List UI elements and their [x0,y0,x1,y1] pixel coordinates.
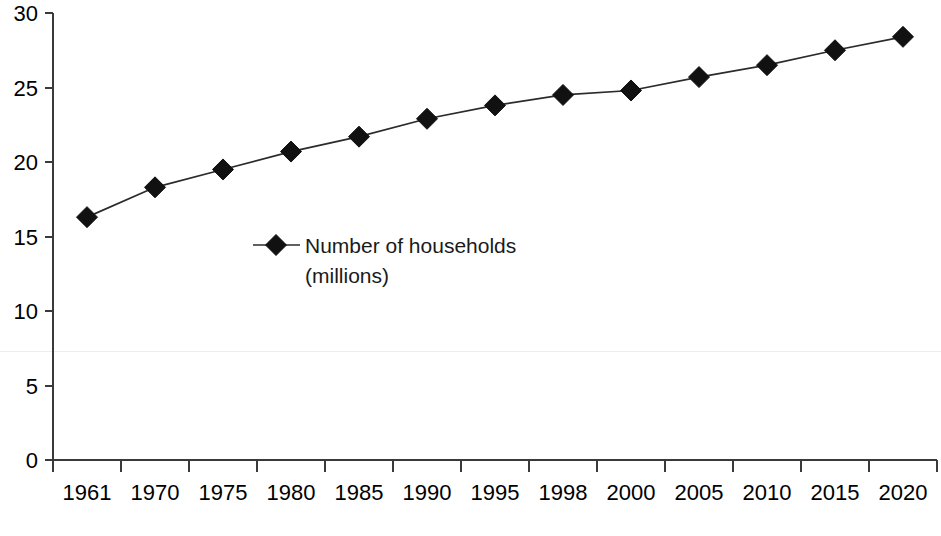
legend-label-line2: (millions) [305,264,389,287]
x-tick-label-2015: 2015 [811,480,860,505]
x-tick-label-2010: 2010 [743,480,792,505]
legend-label-line1: Number of households [305,234,516,257]
x-tick-label-1990: 1990 [403,480,452,505]
y-tick-label-30: 30 [14,1,38,26]
x-tick-label-1961: 1961 [63,480,112,505]
y-tick-label-0: 0 [26,448,38,473]
x-tick-label-1995: 1995 [471,480,520,505]
line-chart: 051015202530 196119701975198019851990199… [0,0,941,536]
y-tick-label-5: 5 [26,374,38,399]
x-tick-label-1998: 1998 [539,480,588,505]
y-tick-label-10: 10 [14,299,38,324]
y-tick-label-15: 15 [14,225,38,250]
chart-background [0,0,941,536]
x-tick-label-1985: 1985 [335,480,384,505]
y-tick-label-25: 25 [14,76,38,101]
x-tick-label-2020: 2020 [879,480,928,505]
x-tick-label-2005: 2005 [675,480,724,505]
chart-container: 051015202530 196119701975198019851990199… [0,0,941,536]
x-tick-label-1970: 1970 [131,480,180,505]
x-tick-label-1975: 1975 [199,480,248,505]
x-tick-label-1980: 1980 [267,480,316,505]
x-tick-label-2000: 2000 [607,480,656,505]
y-tick-label-20: 20 [14,150,38,175]
